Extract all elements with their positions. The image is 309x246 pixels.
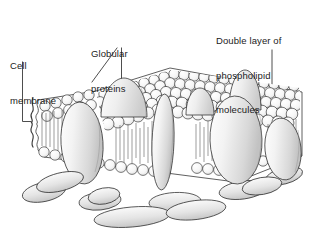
label-cell-membrane-line2: membrane — [10, 95, 56, 107]
cell-membrane-figure: Cell membrane Globular proteins Double l… — [0, 0, 309, 246]
label-globular-proteins-line2: proteins — [91, 83, 128, 95]
label-cell-membrane: Cell membrane — [10, 37, 56, 129]
label-double-layer-line1: Double layer of — [216, 35, 281, 47]
label-double-layer-line3: molecules — [216, 104, 281, 116]
label-globular-proteins: Globular proteins — [91, 25, 128, 117]
label-globular-proteins-line1: Globular — [91, 48, 128, 60]
label-cell-membrane-line1: Cell — [10, 60, 56, 72]
label-double-layer-line2: phospholipid — [216, 70, 281, 82]
label-double-layer: Double layer of phospholipid molecules — [216, 12, 281, 139]
